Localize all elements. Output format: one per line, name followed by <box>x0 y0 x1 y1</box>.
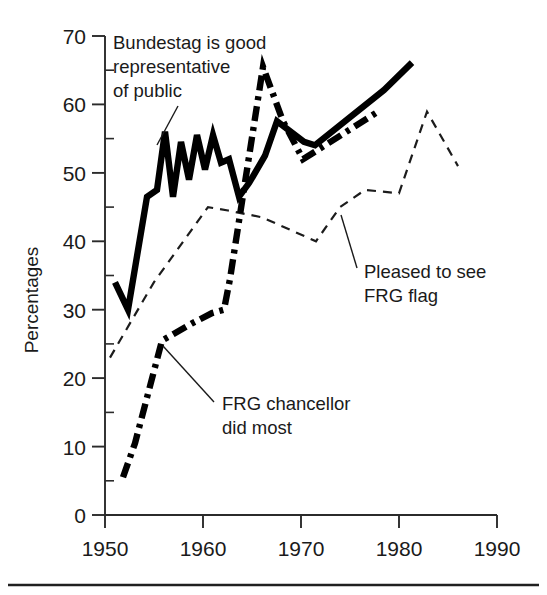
annotation-bundestag: Bundestag is good representative of publ… <box>113 32 266 145</box>
annotation-frg-flag: Pleased to see FRG flag <box>341 215 486 306</box>
y-tick-label-70: 70 <box>63 25 86 48</box>
x-tick-label-1960: 1960 <box>180 537 227 560</box>
annotation-frg-chancellor-line2: did most <box>222 417 292 438</box>
y-axis-title: Percentages <box>21 247 42 354</box>
y-tick-label-0: 0 <box>74 504 86 527</box>
axis-group <box>92 36 497 528</box>
x-tick-labels: 1950 1960 1970 1980 1990 <box>82 537 521 560</box>
y-tick-label-20: 20 <box>63 367 86 390</box>
annotation-bundestag-line3: of public <box>113 80 182 101</box>
y-tick-label-30: 30 <box>63 299 86 322</box>
annotation-bundestag-line1: Bundestag is good <box>113 32 266 53</box>
y-tick-labels: 0 10 20 30 40 50 60 70 <box>63 25 86 527</box>
x-tick-label-1990: 1990 <box>474 537 521 560</box>
annotation-bundestag-line2: representative <box>113 56 230 77</box>
annotation-frg-flag-line2: FRG flag <box>364 285 438 306</box>
x-tick-label-1950: 1950 <box>82 537 129 560</box>
y-tick-marks-major <box>92 36 105 515</box>
x-tick-label-1980: 1980 <box>376 537 423 560</box>
y-tick-label-60: 60 <box>63 93 86 116</box>
annotation-frg-flag-leader <box>341 215 357 268</box>
annotation-frg-chancellor-leader <box>163 346 214 402</box>
annotation-frg-flag-line1: Pleased to see <box>364 261 486 282</box>
x-tick-marks <box>105 515 497 528</box>
y-tick-label-40: 40 <box>63 230 86 253</box>
x-tick-label-1970: 1970 <box>278 537 325 560</box>
chart-figure: 0 10 20 30 40 50 60 70 1950 1960 1970 19… <box>0 0 547 595</box>
y-tick-marks-minor <box>105 70 114 481</box>
y-tick-label-10: 10 <box>63 436 86 459</box>
annotation-frg-chancellor: FRG chancellor did most <box>163 346 351 438</box>
chart-canvas: 0 10 20 30 40 50 60 70 1950 1960 1970 19… <box>0 0 547 595</box>
annotation-frg-chancellor-line1: FRG chancellor <box>222 393 351 414</box>
y-tick-label-50: 50 <box>63 162 86 185</box>
